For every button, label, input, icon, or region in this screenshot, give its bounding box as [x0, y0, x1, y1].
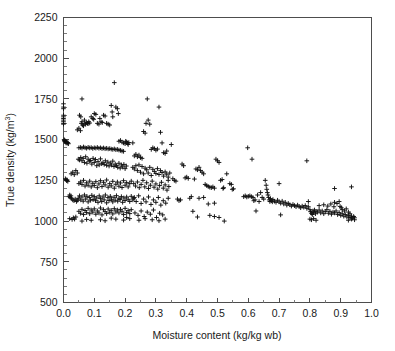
- data-point-plus-marker: [121, 218, 126, 223]
- x-axis-title: Moisture content (kg/kg wb): [153, 329, 282, 341]
- data-point-plus-marker: [208, 213, 213, 218]
- x-tick-label: 0.7: [272, 307, 287, 319]
- data-point-plus-marker: [263, 178, 268, 183]
- data-point-plus-marker: [195, 215, 200, 220]
- data-point-plus-marker: [139, 209, 144, 214]
- data-point-plus-marker: [85, 161, 90, 166]
- data-point-plus-marker: [254, 209, 259, 214]
- data-point-plus-marker: [191, 209, 196, 214]
- data-point-plus-marker: [98, 157, 103, 162]
- data-point-plus-marker: [306, 199, 311, 204]
- data-point-plus-marker: [104, 201, 109, 206]
- data-point-plus-marker: [255, 193, 260, 198]
- x-tick-label: 0.8: [303, 307, 318, 319]
- data-point-plus-marker: [67, 216, 72, 221]
- data-point-plus-marker: [221, 186, 226, 191]
- data-point-plus-marker: [147, 122, 152, 127]
- data-point-plus-marker: [131, 141, 136, 146]
- data-point-plus-marker: [257, 199, 262, 204]
- data-point-plus-marker: [157, 218, 162, 223]
- data-point-plus-marker: [148, 212, 153, 217]
- x-tick-label: 0.0: [56, 307, 71, 319]
- data-point-plus-marker: [116, 111, 121, 116]
- data-point-plus-marker: [222, 219, 227, 224]
- data-point-plus-marker: [91, 117, 96, 122]
- data-point-plus-marker: [332, 186, 337, 191]
- data-point-plus-marker: [264, 183, 269, 188]
- chart-figure: 0.00.10.20.30.40.50.60.70.80.91.0 500750…: [0, 0, 395, 351]
- x-tick-label: 1.0: [364, 307, 379, 319]
- y-tick-label: 500: [40, 296, 58, 308]
- data-point-plus-marker: [192, 177, 197, 182]
- data-point-plus-marker: [149, 173, 154, 178]
- y-tick-label: 1000: [34, 215, 58, 227]
- data-point-plus-marker: [110, 179, 115, 184]
- data-point-plus-marker: [94, 163, 99, 168]
- data-point-plus-marker: [151, 198, 156, 203]
- y-axis-title-main: True density (kg/m: [4, 120, 16, 207]
- data-point-plus-marker: [161, 198, 166, 203]
- data-point-plus-marker: [61, 122, 66, 127]
- data-point-plus-marker: [110, 110, 115, 115]
- data-point-plus-marker: [139, 201, 144, 206]
- data-point-plus-marker: [150, 217, 155, 222]
- data-point-plus-marker: [250, 157, 255, 162]
- data-point-plus-marker: [84, 217, 89, 222]
- data-point-plus-marker: [224, 172, 229, 177]
- data-point-plus-marker: [221, 185, 226, 190]
- data-point-plus-marker: [212, 201, 217, 206]
- data-point-plus-marker: [144, 121, 149, 126]
- data-point-plus-marker: [266, 193, 271, 198]
- data-point-plus-marker: [264, 187, 269, 192]
- y-axis-title: True density (kg/m3): [3, 113, 16, 207]
- data-point-plus-marker: [305, 159, 310, 164]
- data-point-plus-marker: [245, 145, 250, 150]
- data-point-plus-marker: [159, 203, 164, 208]
- x-tick-label: 0.9: [333, 307, 348, 319]
- data-point-markers: [61, 80, 357, 223]
- data-point-plus-marker: [103, 218, 108, 223]
- data-point-plus-marker: [112, 80, 117, 85]
- data-point-plus-marker: [104, 178, 109, 183]
- data-point-plus-marker: [141, 178, 146, 183]
- data-point-plus-marker: [317, 203, 322, 208]
- data-point-plus-marker: [160, 141, 165, 146]
- y-tick-label: 1500: [34, 133, 58, 145]
- y-axis-major-ticks: [64, 18, 69, 303]
- data-point-plus-marker: [156, 195, 161, 200]
- data-point-plus-marker: [278, 213, 283, 218]
- data-point-plus-marker: [110, 115, 115, 120]
- x-tick-label: 0.3: [149, 307, 164, 319]
- svg-text:True density (kg/m3): True density (kg/m3): [3, 113, 16, 207]
- data-point-plus-marker: [143, 216, 148, 221]
- y-tick-label: 1750: [34, 93, 58, 105]
- data-point-plus-marker: [321, 202, 326, 207]
- data-point-plus-marker: [146, 118, 151, 123]
- data-point-plus-marker: [80, 219, 85, 224]
- data-point-plus-marker: [89, 218, 94, 223]
- data-point-plus-marker: [136, 213, 141, 218]
- data-point-plus-marker: [150, 179, 155, 184]
- y-axis-tick-labels: 500750100012501500175020002250: [34, 11, 58, 308]
- data-point-plus-marker: [109, 103, 114, 108]
- data-point-plus-marker: [163, 201, 168, 206]
- x-axis-tick-labels: 0.00.10.20.30.40.50.60.70.80.91.0: [56, 307, 379, 319]
- data-point-plus-marker: [154, 215, 159, 220]
- data-point-plus-marker: [149, 202, 154, 207]
- data-point-plus-marker: [349, 185, 354, 190]
- data-point-plus-marker: [146, 195, 151, 200]
- data-point-plus-marker: [217, 215, 222, 220]
- y-tick-label: 2250: [34, 11, 58, 23]
- data-point-plus-marker: [154, 200, 159, 205]
- data-point-plus-marker: [136, 194, 141, 199]
- data-point-plus-marker: [157, 105, 162, 110]
- data-point-plus-marker: [133, 211, 138, 216]
- data-point-plus-marker: [145, 97, 150, 102]
- x-tick-label: 0.2: [118, 307, 133, 319]
- y-tick-label: 1250: [34, 174, 58, 186]
- data-point-plus-marker: [201, 195, 206, 200]
- data-point-plus-marker: [114, 217, 119, 222]
- data-point-plus-marker: [123, 206, 128, 211]
- y-axis-title-tail: ): [4, 113, 16, 117]
- data-point-plus-marker: [80, 97, 85, 102]
